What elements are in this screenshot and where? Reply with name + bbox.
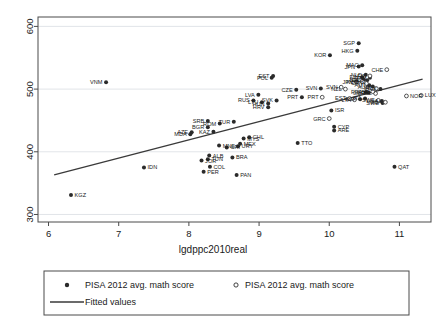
data-point-CZE xyxy=(294,88,298,92)
data-point-PAN xyxy=(235,173,239,177)
point-label-VNM: VNM xyxy=(90,79,103,85)
point-label-CZE: CZE xyxy=(281,87,292,93)
data-point-BRA xyxy=(230,155,234,159)
point-label-KGZ: KGZ xyxy=(75,192,87,198)
point-label-MDA: MDA xyxy=(174,131,187,137)
data-point-NZL xyxy=(343,87,347,91)
point-label-GBR: GBR xyxy=(357,89,369,95)
y-tick-label-600: 600 xyxy=(24,18,35,34)
point-label-LTA: LTA xyxy=(341,97,351,103)
data-point-PRT xyxy=(300,95,304,99)
point-label-BRA: BRA xyxy=(236,154,248,160)
y-tick-label-400: 400 xyxy=(24,144,35,160)
legend-box xyxy=(44,271,409,315)
data-point-CHE xyxy=(385,68,389,72)
point-label-KAZ: KAZ xyxy=(199,129,210,135)
data-point-TUR xyxy=(232,120,236,124)
point-label-PRT: PRT xyxy=(308,94,320,100)
legend-label-open: PISA 2012 avg. math score xyxy=(245,280,354,290)
data-point-TTO xyxy=(296,141,300,145)
data-point-CYP xyxy=(332,125,336,129)
chart-legend: PISA 2012 avg. math scorePISA 2012 avg. … xyxy=(44,271,409,315)
point-label-ROM: ROM xyxy=(203,121,216,127)
point-label-PRT: PRT xyxy=(287,94,299,100)
point-label-IDN: IDN xyxy=(148,164,158,170)
point-label-LUX: LUX xyxy=(425,92,436,98)
data-point-MDA xyxy=(188,132,192,136)
point-label-LVA: LVA xyxy=(245,92,255,98)
point-label-NOR: NOR xyxy=(410,93,422,99)
point-label-USA: USA xyxy=(370,99,382,105)
point-label-CHE: CHE xyxy=(371,67,383,73)
data-point-ISR xyxy=(329,108,333,112)
data-point-MNE xyxy=(217,144,221,148)
point-label-FIN: FIN xyxy=(357,73,366,79)
data-point-JOR xyxy=(200,159,204,163)
point-label-PER: PER xyxy=(207,169,219,175)
legend-marker-filled-circle xyxy=(65,283,69,287)
point-label-EST: EST xyxy=(259,73,270,79)
y-tick-label-500: 500 xyxy=(24,81,35,97)
data-point-VNM xyxy=(104,80,108,84)
point-label-CAN: CAN xyxy=(351,80,363,86)
data-point-ARE xyxy=(332,128,336,132)
y-tick-label-300: 300 xyxy=(24,207,35,223)
data-point-KAZ xyxy=(211,130,215,134)
point-label-SVK: SVK xyxy=(262,97,273,103)
point-label-ISR: ISR xyxy=(335,107,344,113)
data-point-DNK xyxy=(378,87,382,91)
scatter-plot-figure: KGZVNMIDNJORALBTUNCOLPERBRAPANAZEMDASRBB… xyxy=(0,0,440,323)
point-label-TUN: TUN xyxy=(211,156,223,162)
data-point-NOR xyxy=(405,94,409,98)
data-point-IDN xyxy=(142,165,146,169)
point-label-CRI: CRI xyxy=(230,144,240,150)
data-point-SGP xyxy=(357,41,361,45)
data-point-QAT xyxy=(393,165,397,169)
x-tick-label-11: 11 xyxy=(394,228,404,239)
point-label-ARE: ARE xyxy=(338,127,350,133)
data-point-FIN xyxy=(368,74,372,78)
legend-marker-open-circle xyxy=(234,283,238,287)
data-point-PRT xyxy=(320,95,324,99)
data-point-GRC xyxy=(327,117,331,121)
x-tick-label-7: 7 xyxy=(116,228,121,239)
point-label-SVN: SVN xyxy=(326,84,338,90)
legend-label-filled: PISA 2012 avg. math score xyxy=(85,280,194,290)
point-label-CHL: CHL xyxy=(253,134,264,140)
data-point-SVK xyxy=(275,98,279,102)
x-tick-label-9: 9 xyxy=(256,228,261,239)
data-point-USA xyxy=(383,100,387,104)
x-tick-label-6: 6 xyxy=(46,228,51,239)
data-point-LVA xyxy=(256,93,260,97)
data-point-SVN xyxy=(319,86,323,90)
point-label-RUS: RUS xyxy=(238,97,250,103)
data-point-HKG xyxy=(355,49,359,53)
data-point-KOR xyxy=(328,53,332,57)
data-point-EST xyxy=(271,74,275,78)
data-point-KGZ xyxy=(69,193,73,197)
point-label-GRC: GRC xyxy=(313,116,325,122)
data-point-HRV xyxy=(266,105,270,109)
chart-canvas: KGZVNMIDNJORALBTUNCOLPERBRAPANAZEMDASRBB… xyxy=(0,0,440,323)
point-label-PAN: PAN xyxy=(240,172,251,178)
data-point-MAC xyxy=(360,63,364,67)
point-label-SVN: SVN xyxy=(306,85,318,91)
legend-label-fitted-values: Fitted values xyxy=(85,297,137,307)
point-label-TUR: TUR xyxy=(219,119,231,125)
x-tick-label-8: 8 xyxy=(186,228,191,239)
point-label-HKG: HKG xyxy=(342,48,354,54)
point-label-QAT: QAT xyxy=(398,164,410,170)
point-label-TTO: TTO xyxy=(301,140,313,146)
point-label-KOR: KOR xyxy=(314,52,326,58)
data-point-PER xyxy=(202,170,206,174)
x-tick-label-10: 10 xyxy=(324,228,335,239)
x-axis-title: lgdppc2010real xyxy=(179,244,247,255)
point-label-SGP: SGP xyxy=(343,40,355,46)
point-label-MAC: MAC xyxy=(346,62,358,68)
